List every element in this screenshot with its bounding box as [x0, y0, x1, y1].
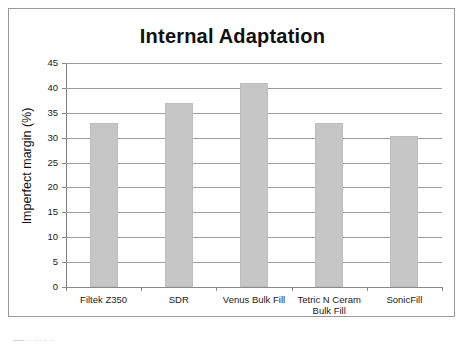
y-tick-mark — [62, 113, 66, 114]
x-tick-mark — [216, 287, 217, 291]
y-tick-mark — [62, 88, 66, 89]
chart-frame: Internal Adaptation Imperfect margin (%)… — [8, 8, 455, 317]
bar — [390, 136, 418, 287]
plot-area: 051015202530354045Filtek Z350SDRVenus Bu… — [66, 63, 442, 287]
category-label: Filtek Z350 — [66, 294, 141, 305]
category-label: SDR — [141, 294, 216, 305]
y-tick-label: 35 — [32, 108, 58, 118]
category-label: Venus Bulk Fill — [216, 294, 291, 305]
y-tick-label: 45 — [32, 58, 58, 68]
y-tick-mark — [62, 262, 66, 263]
category-label: Tetric N CeramBulk Fill — [292, 294, 367, 316]
category-label-line: Filtek Z350 — [66, 294, 141, 305]
y-tick-label: 20 — [32, 182, 58, 192]
y-tick-label: 10 — [32, 232, 58, 242]
category-label-line: Bulk Fill — [292, 305, 367, 316]
bar — [165, 103, 193, 287]
y-tick-mark — [62, 63, 66, 64]
y-tick-label: 30 — [32, 133, 58, 143]
x-tick-mark — [141, 287, 142, 291]
bar — [90, 123, 118, 287]
y-tick-label: 15 — [32, 207, 58, 217]
y-tick-mark — [62, 212, 66, 213]
chart-title: Internal Adaptation — [9, 25, 456, 48]
category-label-line: Tetric N Ceram — [292, 294, 367, 305]
y-tick-mark — [62, 138, 66, 139]
y-tick-label: 0 — [32, 282, 58, 292]
x-tick-mark — [442, 287, 443, 291]
scan-artifact-text: ── ·· ··· · ·· — [13, 336, 133, 344]
y-tick-label: 5 — [32, 257, 58, 267]
x-tick-mark — [367, 287, 368, 291]
category-label-line: SonicFill — [367, 294, 442, 305]
x-tick-mark — [292, 287, 293, 291]
y-tick-mark — [62, 187, 66, 188]
gridline — [66, 287, 442, 288]
y-tick-mark — [62, 237, 66, 238]
bar — [315, 123, 343, 287]
y-tick-mark — [62, 163, 66, 164]
category-label-line: Venus Bulk Fill — [216, 294, 291, 305]
bar — [240, 83, 268, 287]
y-tick-label: 40 — [32, 83, 58, 93]
x-tick-mark — [66, 287, 67, 291]
y-tick-label: 25 — [32, 158, 58, 168]
gridline — [66, 63, 442, 64]
category-label: SonicFill — [367, 294, 442, 305]
category-label-line: SDR — [141, 294, 216, 305]
